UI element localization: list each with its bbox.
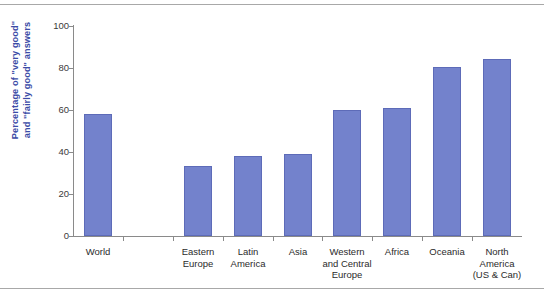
x-axis-label-line: America xyxy=(211,258,285,270)
x-tick xyxy=(223,237,224,241)
y-tick-label: 100 xyxy=(29,21,69,31)
y-tick xyxy=(69,236,73,237)
x-tick xyxy=(123,237,124,241)
bar xyxy=(234,156,262,236)
bar xyxy=(84,114,112,236)
y-tick xyxy=(69,152,73,153)
x-tick xyxy=(372,237,373,241)
x-tick xyxy=(422,237,423,241)
x-axis-label-line: America xyxy=(460,258,534,270)
x-axis-label-line: (US & Can) xyxy=(460,269,534,281)
bar xyxy=(383,108,411,236)
x-tick xyxy=(322,237,323,241)
y-tick xyxy=(69,110,73,111)
y-tick xyxy=(69,68,73,69)
bar xyxy=(433,67,461,236)
y-axis-line xyxy=(73,25,74,237)
y-tick-label: 40 xyxy=(29,147,69,157)
y-tick-label: 60 xyxy=(29,105,69,115)
x-axis-label-line: and Central xyxy=(310,258,384,270)
bar xyxy=(483,59,511,236)
x-axis-label-line: Europe xyxy=(310,269,384,281)
y-tick-label: 0 xyxy=(29,231,69,241)
y-tick-label: 80 xyxy=(29,63,69,73)
x-tick xyxy=(173,237,174,241)
y-tick xyxy=(69,26,73,27)
y-axis-title-line-1: Percentage of "very good" xyxy=(10,0,22,160)
x-axis-line xyxy=(73,236,522,237)
x-axis-label: World xyxy=(61,246,135,258)
x-axis-label-line: World xyxy=(61,246,135,258)
x-tick xyxy=(472,237,473,241)
x-axis-label: NorthAmerica(US & Can) xyxy=(460,246,534,281)
x-axis-label-line: North xyxy=(460,246,534,258)
bar xyxy=(333,110,361,236)
bar-chart-figure: Percentage of "very good" and "fairly go… xyxy=(0,0,544,301)
y-tick-label: 20 xyxy=(29,189,69,199)
bar xyxy=(184,166,212,236)
bar xyxy=(284,154,312,236)
y-tick xyxy=(69,194,73,195)
x-tick xyxy=(273,237,274,241)
